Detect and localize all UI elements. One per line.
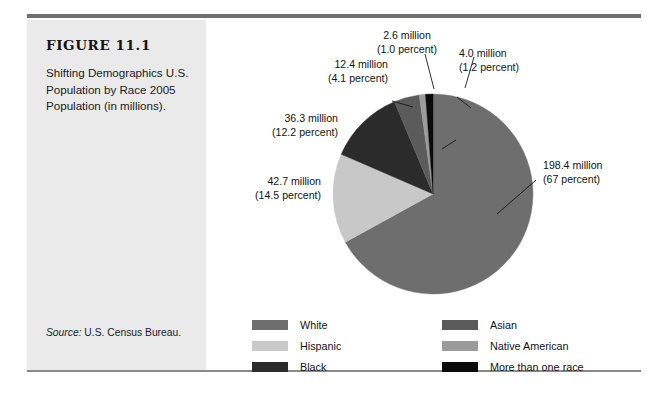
callout-black: 36.3 million (12.2 percent)	[218, 112, 338, 139]
legend-item-hispanic[interactable]: Hispanic	[252, 335, 447, 356]
callout-black-value: 36.3 million	[218, 112, 338, 126]
callout-native-american-percent: (1.0 percent)	[352, 43, 462, 57]
legend-item-native-american[interactable]: Native American	[442, 335, 637, 356]
figure-source: Source: U.S. Census Bureau.	[46, 326, 198, 340]
legend-item-white[interactable]: White	[252, 314, 447, 335]
figure-sidebar: FIGURE 11.1 Shifting Demographics U.S. P…	[27, 20, 206, 370]
pie-chart-area: 2.6 million (1.0 percent) 4.0 million (1…	[206, 14, 641, 370]
figure-number: FIGURE 11.1	[46, 37, 151, 53]
callout-asian-percent: (4.1 percent)	[268, 72, 388, 86]
legend-label-white: White	[300, 319, 328, 331]
callout-native-american: 2.6 million (1.0 percent)	[352, 29, 462, 56]
callout-white-value: 198.4 million	[543, 159, 602, 173]
callout-more-percent: (1.2 percent)	[459, 61, 519, 75]
legend-swatch-hispanic	[252, 341, 288, 351]
callout-more-than-one-race: 4.0 million (1.2 percent)	[459, 47, 519, 74]
pie-slices	[333, 94, 533, 294]
legend-swatch-more-than-one-race	[442, 362, 478, 372]
chart-legend: WhiteHispanicBlack AsianNative AmericanM…	[252, 314, 642, 376]
callout-white: 198.4 million (67 percent)	[543, 159, 602, 186]
legend-item-more-than-one-race[interactable]: More than one race	[442, 356, 637, 377]
callout-asian: 12.4 million (4.1 percent)	[268, 58, 388, 85]
legend-item-black[interactable]: Black	[252, 356, 447, 377]
legend-column-left: WhiteHispanicBlack	[252, 314, 447, 377]
figure-block: FIGURE 11.1 Shifting Demographics U.S. P…	[27, 14, 641, 376]
legend-column-right: AsianNative AmericanMore than one race	[442, 314, 637, 377]
legend-label-more-than-one-race: More than one race	[490, 361, 584, 373]
legend-swatch-native-american	[442, 341, 478, 351]
figure-caption: Shifting Demographics U.S. Population by…	[46, 65, 196, 115]
source-text: U.S. Census Bureau.	[82, 327, 182, 338]
callout-native-american-value: 2.6 million	[352, 29, 462, 43]
source-label: Source:	[46, 327, 82, 338]
callout-black-percent: (12.2 percent)	[218, 126, 338, 140]
legend-label-asian: Asian	[490, 319, 517, 331]
callout-hispanic: 42.7 million (14.5 percent)	[201, 175, 321, 202]
legend-swatch-black	[252, 362, 288, 372]
legend-label-native-american: Native American	[490, 340, 569, 352]
callout-hispanic-percent: (14.5 percent)	[201, 189, 321, 203]
legend-label-hispanic: Hispanic	[300, 340, 341, 352]
legend-item-asian[interactable]: Asian	[442, 314, 637, 335]
legend-swatch-white	[252, 320, 288, 330]
callout-asian-value: 12.4 million	[268, 58, 388, 72]
leader-line-native	[425, 54, 434, 89]
callout-more-value: 4.0 million	[459, 47, 519, 61]
callout-white-percent: (67 percent)	[543, 173, 602, 187]
legend-swatch-asian	[442, 320, 478, 330]
legend-label-black: Black	[300, 361, 326, 373]
callout-hispanic-value: 42.7 million	[201, 175, 321, 189]
